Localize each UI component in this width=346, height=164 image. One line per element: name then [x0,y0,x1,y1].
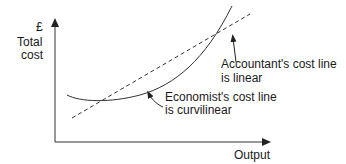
diagram-graphics [0,0,346,164]
economist-label-line2: is curvilinear [165,103,232,117]
economist-curvilinear-cost-line [67,6,232,101]
economist-pointer-arrow [149,94,163,107]
y-axis-label-total: Total [17,35,42,49]
y-axis-currency: £ [36,20,43,34]
x-axis [55,138,271,146]
economist-label-line1: Economist's cost line [165,90,277,104]
accountant-label-line1: Accountant's cost line [221,57,337,71]
y-axis [51,18,59,142]
x-axis-label: Output [234,148,270,162]
y-axis-label-cost: cost [21,48,43,62]
x-axis-arrow-icon [262,138,271,146]
y-axis-arrow-icon [51,18,59,27]
accountant-label-line2: is linear [221,71,262,85]
cost-line-diagram: £ Total cost Accountant's cost line is l… [0,0,346,164]
